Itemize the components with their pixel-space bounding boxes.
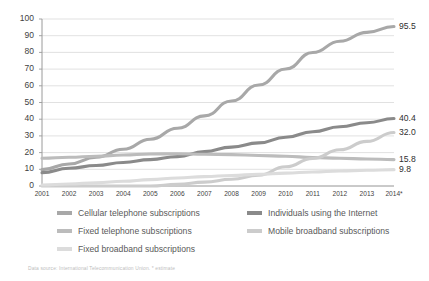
y-tick-label-20: 20 (0, 148, 34, 157)
legend-label: Cellular telephone subscriptions (78, 208, 200, 218)
chart-plot-area: 0102030405060708090100 20012002200320042… (0, 0, 429, 200)
legend-swatch-icon (57, 229, 72, 233)
legend-label: Individuals using the Internet (268, 208, 377, 218)
x-tick-label-2009: 2009 (244, 190, 274, 198)
legend-item-2[interactable]: Fixed broadband subscriptions (57, 244, 195, 254)
data-label-series-0: 95.5 (399, 22, 416, 31)
legend-label: Fixed telephone subscriptions (78, 226, 192, 236)
x-tick-label-2008: 2008 (217, 190, 247, 198)
legend-item-3[interactable]: Individuals using the Internet (247, 208, 377, 218)
series-line-4 (42, 170, 394, 185)
x-tick-label-2005: 2005 (135, 190, 165, 198)
legend-item-0[interactable]: Cellular telephone subscriptions (57, 208, 200, 218)
y-tick-label-80: 80 (0, 47, 34, 56)
data-label-series-3: 32.0 (399, 128, 416, 137)
x-tick-label-2007: 2007 (189, 190, 219, 198)
source-note: Data source: International Telecommunica… (28, 266, 175, 271)
data-label-series-4: 9.8 (399, 165, 411, 174)
x-tick-label-2013: 2013 (352, 190, 382, 198)
x-tick-label-2011: 2011 (298, 190, 328, 198)
y-tick-label-10: 10 (0, 164, 34, 173)
x-tick-label-2014-est: 2014* (379, 190, 409, 198)
x-tick-label-2006: 2006 (162, 190, 192, 198)
y-tick-label-50: 50 (0, 98, 34, 107)
legend-label: Fixed broadband subscriptions (78, 244, 195, 254)
legend-item-1[interactable]: Fixed telephone subscriptions (57, 226, 192, 236)
chart-legend: Cellular telephone subscriptionsFixed te… (0, 206, 429, 258)
y-tick-label-30: 30 (0, 131, 34, 140)
legend-label: Mobile broadband subscriptions (268, 226, 389, 236)
x-tick-label-2003: 2003 (81, 190, 111, 198)
data-label-series-1: 40.4 (399, 114, 416, 123)
x-tick-label-2002: 2002 (54, 190, 84, 198)
legend-swatch-icon (247, 229, 262, 233)
y-tick-label-0: 0 (0, 181, 34, 190)
series-line-1 (42, 119, 394, 173)
x-tick-label-2010: 2010 (271, 190, 301, 198)
x-tick-label-2004: 2004 (108, 190, 138, 198)
line-chart-svg (0, 0, 429, 200)
y-tick-label-60: 60 (0, 81, 34, 90)
legend-swatch-icon (57, 211, 72, 215)
y-tick-label-90: 90 (0, 31, 34, 40)
y-tick-label-70: 70 (0, 64, 34, 73)
x-tick-label-2012: 2012 (325, 190, 355, 198)
data-label-series-2: 15.8 (399, 155, 416, 164)
chart-screenshot: 0102030405060708090100 20012002200320042… (0, 0, 429, 281)
legend-swatch-icon (247, 211, 262, 215)
legend-swatch-icon (57, 247, 72, 251)
x-tick-label-2001: 2001 (27, 190, 57, 198)
legend-item-4[interactable]: Mobile broadband subscriptions (247, 226, 389, 236)
y-tick-label-40: 40 (0, 114, 34, 123)
y-tick-label-100: 100 (0, 14, 34, 23)
